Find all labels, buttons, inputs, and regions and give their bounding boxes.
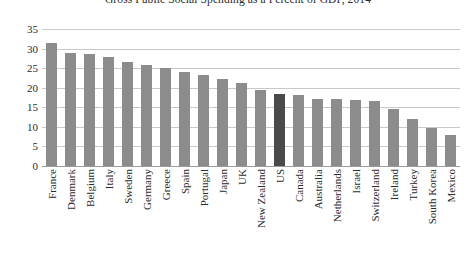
x-tick-label: Denmark [65,169,76,210]
bar-switzerland[interactable] [369,101,380,166]
x-tick-label: Italy [103,169,114,189]
x-tick-label: New Zealand [255,169,266,228]
bar-us[interactable] [274,94,285,166]
x-tick-label: Switzerland [369,169,380,222]
bar-mexico[interactable] [445,135,456,166]
x-tick-label: Israel [350,169,361,193]
x-tick-label: Netherlands [331,169,342,222]
bar-south-korea[interactable] [426,128,437,166]
x-tick-label: Ireland [388,169,399,200]
bar-new-zealand[interactable] [255,90,266,166]
bar-sweden[interactable] [122,62,133,166]
bar-uk[interactable] [236,83,247,166]
bar-spain[interactable] [179,72,190,166]
bar-ireland[interactable] [388,109,399,166]
x-tick-label: Australia [312,169,323,209]
bar-israel[interactable] [350,100,361,166]
y-tick-label: 5 [4,140,38,152]
x-tick-label: Sweden [122,169,133,204]
bar-turkey[interactable] [407,119,418,166]
y-tick-label: 30 [4,43,38,55]
y-tick-label: 10 [4,121,38,133]
x-tick-label: Spain [179,169,190,194]
x-axis-tick-labels: FranceDenmarkBelgiumItalySwedenGermanyGr… [42,167,460,266]
x-tick-label: France [46,169,57,199]
y-tick-label: 35 [4,23,38,35]
y-tick-label: 15 [4,101,38,113]
chart-container: Gross Public Social Spending as a Percen… [0,0,476,266]
y-tick-label: 25 [4,62,38,74]
bar-italy[interactable] [103,57,114,166]
x-tick-label: Belgium [84,169,95,207]
bar-belgium[interactable] [84,54,95,166]
x-tick-label: UK [236,169,247,185]
x-tick-label: South Korea [426,169,437,224]
bar-portugal[interactable] [198,75,209,166]
x-tick-label: Turkey [407,169,418,200]
bar-canada[interactable] [293,95,304,166]
x-tick-label: Germany [141,169,152,210]
bar-netherlands[interactable] [331,99,342,166]
x-tick-label: Greece [160,169,171,200]
bar-series [42,29,460,166]
chart-title: Gross Public Social Spending as a Percen… [0,0,476,5]
x-tick-label: Canada [293,169,304,202]
x-tick-label: Mexico [445,169,456,203]
x-tick-label: US [274,169,285,183]
bar-denmark[interactable] [65,53,76,166]
x-tick-label: Japan [217,169,228,194]
x-tick-label: Portugal [198,169,209,206]
bar-greece[interactable] [160,68,171,166]
y-axis-tick-labels: 05101520253035 [0,29,38,166]
y-tick-label: 0 [4,160,38,172]
bar-australia[interactable] [312,99,323,166]
bar-france[interactable] [46,43,57,166]
bar-japan[interactable] [217,79,228,166]
bar-germany[interactable] [141,65,152,166]
y-tick-label: 20 [4,82,38,94]
